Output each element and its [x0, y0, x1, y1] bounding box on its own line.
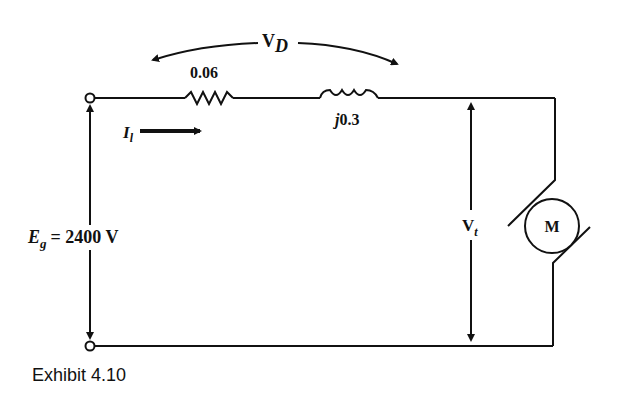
current-label: Il	[122, 123, 134, 145]
resistor-symbol	[185, 92, 233, 104]
top-terminal	[86, 94, 95, 103]
resistor-value: 0.06	[190, 64, 218, 81]
top-wire	[95, 90, 555, 104]
inductor-value: j0.3	[332, 111, 359, 129]
motor-label: M	[544, 218, 559, 235]
terminal-voltage-label: Vt	[462, 216, 478, 239]
voltage-drop-label: VD	[262, 31, 288, 56]
source-voltage-label: Eg= 2400 V	[27, 227, 118, 251]
inductor-symbol	[320, 90, 378, 98]
circuit-diagram: VD 0.06 j0.3 Il Eg= 2400 V Vt M Exhibit …	[0, 0, 617, 401]
bottom-terminal	[86, 342, 95, 351]
exhibit-caption: Exhibit 4.10	[32, 365, 126, 385]
